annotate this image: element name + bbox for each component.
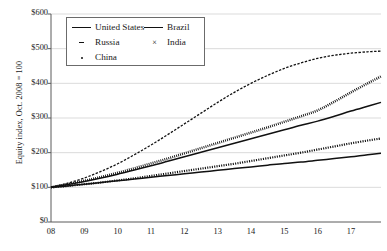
legend-label: China <box>93 52 117 62</box>
marker-glyph <box>81 57 83 59</box>
dash-marker-icon <box>71 36 93 48</box>
marker-glyph <box>144 27 163 29</box>
marker-glyph: × <box>150 38 159 47</box>
series-china <box>51 138 381 187</box>
legend-label: Russia <box>93 37 120 47</box>
marker-glyph <box>79 42 84 43</box>
legend-item-russia[interactable]: Russia <box>71 35 120 49</box>
legend-item-china[interactable]: China <box>71 50 117 64</box>
legend-item-united-states[interactable]: United States <box>71 20 144 34</box>
solid-line-icon <box>143 21 165 33</box>
legend-item-india[interactable]: ×India <box>143 35 186 49</box>
dot-marker-icon <box>71 51 93 63</box>
chart-legend: United StatesBrazilRussia×IndiaChina <box>66 17 205 66</box>
marker-glyph <box>72 27 91 29</box>
legend-label: United States <box>93 22 144 32</box>
legend-label: Brazil <box>165 22 189 32</box>
x-marker-icon: × <box>143 36 165 48</box>
equity-index-line-chart: Equity index, Oct. 2008 = 100 $600$500$4… <box>0 0 387 251</box>
solid-line-icon <box>71 21 93 33</box>
legend-label: India <box>165 37 186 47</box>
series-brazil <box>51 102 381 187</box>
series-russia <box>51 51 381 187</box>
legend-item-brazil[interactable]: Brazil <box>143 20 189 34</box>
